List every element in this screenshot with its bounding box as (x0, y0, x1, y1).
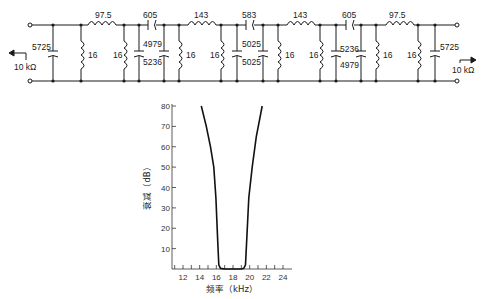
inductor-label: 16 (88, 50, 98, 60)
cap-pair-3-top-label: 5236 (340, 44, 359, 54)
x-tick-label: 24 (279, 273, 288, 282)
load-arrow-icon (460, 57, 476, 63)
cap-pair-2-bottom-label: 5025 (242, 57, 261, 67)
x-ticks: 12141618202224 (175, 265, 288, 282)
shunt-capacitor-left (48, 25, 58, 81)
attenuation-chart: 1020304050607080 12141618202224 频率（kHz） … (142, 102, 292, 294)
series-inductor-3 (287, 22, 315, 26)
shunt-capacitor-right (430, 25, 440, 81)
shunt-inductors (81, 25, 421, 81)
series-label-4: 583 (242, 10, 256, 20)
source-arrow-icon (9, 50, 26, 60)
series-label-3: 143 (194, 10, 208, 20)
y-tick-label: 50 (161, 163, 170, 172)
inductor-label: 16 (113, 50, 123, 60)
inductor-label: 16 (285, 50, 295, 60)
ladder-filter-circuit (9, 20, 476, 83)
load-impedance-label: 10 kΩ (452, 65, 474, 75)
y-tick-label: 20 (161, 224, 170, 233)
y-tick-label: 80 (161, 102, 170, 111)
y-ticks: 1020304050607080 (161, 102, 176, 254)
series-label-7: 97.5 (389, 10, 406, 20)
output-terminal-top (455, 23, 459, 27)
series-inductor-4 (386, 22, 414, 26)
cap-pair-1-top-label: 4979 (143, 39, 162, 49)
output-terminal-bottom (455, 79, 459, 83)
series-capacitor-3 (346, 20, 354, 30)
x-tick-label: 18 (229, 273, 238, 282)
cap-pair-1-bottom-label: 5236 (143, 57, 162, 67)
inductor-label: 16 (210, 50, 220, 60)
y-tick-label: 40 (161, 184, 170, 193)
inductor-label: 16 (186, 50, 196, 60)
shunt-cap-left-label: 5725 (32, 42, 51, 52)
series-label-1: 97.5 (95, 10, 112, 20)
shunt-capacitor-pair-1 (134, 25, 169, 81)
y-tick-label: 60 (161, 143, 170, 152)
shunt-cap-right-label: 5725 (440, 42, 459, 52)
cap-pair-3-bottom-label: 4979 (340, 60, 359, 70)
y-axis-title: 衰减（dB） (142, 162, 152, 209)
series-inductor-1 (88, 22, 116, 26)
y-tick-label: 10 (161, 245, 170, 254)
inductor-label: 16 (407, 50, 417, 60)
series-label-6: 605 (342, 10, 356, 20)
x-tick-label: 12 (179, 273, 188, 282)
filter-diagram: 10 kΩ 10 kΩ 97.5 605 143 583 143 605 97.… (0, 0, 484, 299)
series-inductor-2 (188, 22, 216, 26)
attenuation-curve (201, 106, 262, 269)
x-axis-title: 频率（kHz） (206, 284, 258, 294)
input-terminal-top (28, 23, 32, 27)
y-tick-label: 70 (161, 122, 170, 131)
x-tick-label: 20 (245, 273, 254, 282)
source-impedance-label: 10 kΩ (14, 62, 36, 72)
series-capacitor-2 (246, 20, 254, 30)
series-capacitor-1 (148, 20, 156, 30)
inductor-label: 16 (383, 50, 393, 60)
input-terminal-bottom (28, 79, 32, 83)
series-label-5: 143 (293, 10, 307, 20)
x-tick-label: 14 (195, 273, 204, 282)
shunt-capacitor-pair-2 (232, 25, 268, 81)
series-label-2: 605 (143, 10, 157, 20)
cap-pair-2-top-label: 5025 (242, 39, 261, 49)
x-tick-label: 22 (262, 273, 271, 282)
inductor-label: 16 (309, 50, 319, 60)
y-tick-label: 30 (161, 204, 170, 213)
x-tick-label: 16 (212, 273, 221, 282)
